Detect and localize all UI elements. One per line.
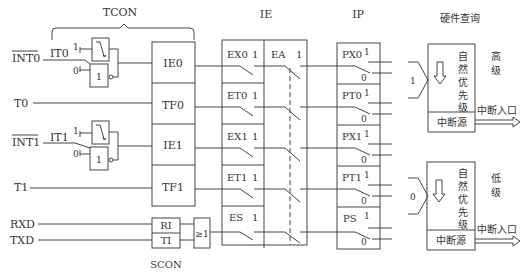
svg-text:1: 1 [73, 126, 79, 136]
svg-text:1: 1 [364, 47, 370, 57]
svg-text:RXD: RXD [10, 218, 35, 231]
ie-label: IE [260, 8, 272, 21]
edge-detector-icon [92, 38, 109, 61]
svg-text:PS: PS [343, 213, 357, 224]
svg-text:级: 级 [491, 187, 501, 198]
svg-text:1: 1 [73, 42, 79, 52]
svg-text:T0: T0 [14, 97, 28, 110]
svg-text:然: 然 [458, 63, 468, 75]
svg-text:0: 0 [73, 66, 79, 76]
svg-text:中断源: 中断源 [436, 234, 466, 246]
svg-text:IT0: IT0 [50, 47, 69, 60]
svg-text:0: 0 [361, 237, 367, 247]
exit-arrow-icon [475, 117, 520, 127]
svg-text:0: 0 [361, 155, 367, 165]
svg-text:中断入口: 中断入口 [477, 104, 517, 116]
svg-text:1: 1 [252, 212, 258, 223]
svg-text:1: 1 [252, 131, 258, 142]
svg-text:ET1: ET1 [227, 172, 247, 183]
svg-text:≥1: ≥1 [195, 229, 208, 239]
svg-text:1: 1 [252, 172, 258, 183]
flag-tf0: TF0 [162, 99, 184, 112]
ip-label: IP [352, 8, 364, 21]
flag-ie1: IE1 [163, 139, 182, 152]
svg-text:1: 1 [410, 76, 416, 86]
svg-text:级: 级 [458, 219, 468, 230]
trigger-select-it1: IT1 1 0 1 [50, 121, 152, 170]
svg-text:0: 0 [361, 114, 367, 124]
svg-text:然: 然 [458, 180, 468, 192]
svg-text:T1: T1 [14, 181, 28, 194]
down-arrow-icon [434, 62, 446, 84]
flag-ie0: IE0 [163, 57, 182, 70]
tcon-brace [52, 24, 194, 40]
svg-text:EX1: EX1 [227, 131, 248, 142]
svg-text:TXD: TXD [10, 234, 34, 247]
svg-text:0: 0 [361, 196, 367, 206]
svg-text:INT1: INT1 [12, 136, 40, 149]
ea-label: EA [271, 49, 286, 60]
svg-text:TI: TI [161, 235, 172, 246]
svg-text:1: 1 [296, 49, 302, 60]
svg-text:高: 高 [491, 50, 501, 62]
svg-text:低: 低 [491, 172, 501, 184]
tcon-flags: IE0 TF0 IE1 TF1 [152, 42, 195, 206]
low-priority-block: 0 自 然 优 先 级 中断源 低 级 中断入口 [408, 162, 520, 250]
svg-text:优: 优 [458, 76, 468, 88]
svg-text:优: 优 [458, 193, 468, 205]
scon-flags: RI TI SCON ≥1 [150, 218, 210, 270]
input-t0: T0 [14, 97, 152, 110]
down-arrow-icon [433, 180, 445, 202]
hardware-poll-label: 硬件查询 [440, 12, 480, 24]
svg-text:0: 0 [73, 149, 79, 159]
svg-text:1: 1 [364, 88, 370, 98]
exit-arrow-icon [475, 236, 520, 246]
ie-register: EX0 1 ET0 1 EX1 1 ET1 1 ES 1 EA 1 [222, 40, 307, 248]
svg-text:IT1: IT1 [50, 131, 69, 144]
tcon-label: TCON [103, 6, 138, 19]
svg-text:PX1: PX1 [342, 131, 362, 142]
svg-text:PT1: PT1 [342, 172, 362, 183]
svg-text:1: 1 [364, 129, 370, 139]
svg-text:ES: ES [229, 212, 243, 223]
scon-label: SCON [150, 259, 182, 270]
svg-text:1: 1 [252, 49, 258, 60]
svg-text:PT0: PT0 [342, 90, 362, 101]
svg-text:中断源: 中断源 [437, 116, 467, 128]
input-rxd: RXD [10, 218, 152, 231]
input-t1: T1 [14, 181, 152, 194]
svg-text:级: 级 [491, 65, 501, 76]
svg-text:INT0: INT0 [12, 52, 40, 65]
svg-text:自: 自 [458, 167, 468, 179]
svg-text:EX0: EX0 [227, 49, 248, 60]
svg-text:自: 自 [458, 50, 468, 62]
high-priority-block: 1 自 然 优 先 级 中断源 高 级 中断入口 [408, 44, 520, 132]
trigger-select-it0: IT0 1 0 1 [50, 38, 152, 87]
svg-text:1: 1 [96, 154, 102, 165]
edge-detector-icon [92, 121, 109, 144]
ip-register: PX0 1 0 PT0 1 0 PX1 1 0 PT1 1 0 PS 1 0 [337, 43, 392, 249]
svg-text:级: 级 [458, 102, 468, 113]
svg-text:1: 1 [364, 211, 370, 221]
svg-text:ET0: ET0 [227, 90, 247, 101]
svg-text:先: 先 [458, 207, 468, 218]
input-txd: TXD [10, 234, 152, 247]
svg-text:中断入口: 中断入口 [477, 223, 517, 235]
svg-text:0: 0 [410, 192, 416, 202]
svg-text:先: 先 [458, 90, 468, 101]
svg-text:1: 1 [96, 71, 102, 82]
svg-text:0: 0 [361, 73, 367, 83]
svg-text:PX0: PX0 [342, 49, 362, 60]
svg-text:1: 1 [252, 90, 258, 101]
svg-text:RI: RI [160, 220, 172, 231]
interrupt-system-diagram: TCON IE IP 硬件查询 INT0 T0 INT1 T1 RXD TXD … [0, 0, 527, 277]
flag-tf1: TF1 [162, 181, 184, 194]
svg-text:1: 1 [364, 170, 370, 180]
